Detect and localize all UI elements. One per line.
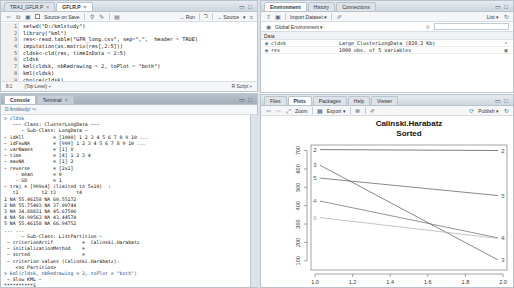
window-controls[interactable]: ▭ □ (495, 3, 509, 10)
previous-plot-icon[interactable]: ⇦ (265, 108, 271, 114)
view-table-icon[interactable]: ▦ (499, 47, 513, 53)
tab-files[interactable]: Files (264, 96, 287, 105)
open-icon[interactable]: ⇧ (265, 14, 271, 20)
tab-help[interactable]: Help (348, 96, 370, 105)
console-scrollbar[interactable] (250, 115, 258, 287)
series-label: 5 (501, 193, 505, 199)
separator (84, 13, 85, 20)
separator (199, 13, 200, 20)
editor-tabbar: TRAJ_GFLR.P× GFLR.P× ▭ □ (1, 1, 257, 12)
code-line[interactable]: 4imputation(as.matrix(res[,2:5])) (1, 43, 257, 50)
separator (109, 13, 110, 20)
series-label: 3 (313, 162, 317, 168)
code-line[interactable]: 8kml(cldsk) (1, 70, 257, 77)
close-icon[interactable]: × (65, 97, 68, 103)
tab-viewer[interactable]: Viewer (371, 96, 398, 105)
publish-icon[interactable]: ⟳ (468, 108, 474, 114)
x-tick-label: 1.2 (349, 279, 357, 285)
tab-packages[interactable]: Packages (313, 96, 347, 105)
code-editor[interactable]: 1setwd("D:/kmlstudy") 2library("kml") 3r… (1, 23, 257, 81)
save-icon[interactable]: ▣ (275, 14, 281, 20)
code-line[interactable]: 2library("kml") (1, 30, 257, 37)
compile-report-icon[interactable]: ▤ (114, 14, 120, 20)
run-button[interactable]: → Run (179, 14, 195, 20)
chart-title: Calinski.Harabatz (376, 119, 443, 128)
environment-scope-dropdown[interactable]: Global Environment ▾ (275, 24, 323, 30)
code-line[interactable]: 1setwd("D:/kmlstudy") (1, 23, 257, 30)
source-dropdown-icon[interactable]: ▾ (243, 14, 246, 20)
rerun-button[interactable]: ⮌ (204, 13, 208, 21)
zoom-button[interactable]: Zoom (295, 108, 308, 114)
series-line (320, 178, 498, 195)
tab-environment[interactable]: Environment (264, 2, 307, 11)
separator (212, 13, 213, 20)
dataset-icon[interactable]: ◉ (265, 47, 268, 53)
refresh-icon[interactable]: ↻ (503, 14, 509, 20)
file-type-selector[interactable]: R Script ÷ (232, 82, 252, 91)
separator (350, 107, 351, 114)
environment-search-input[interactable] (434, 23, 509, 30)
source-on-save-checkbox[interactable] (35, 14, 40, 19)
tab-console[interactable]: Console (4, 95, 36, 104)
env-row[interactable]: ◉ cldsk Large ClusterLongData (820.2 Kb)… (261, 40, 513, 47)
code-line[interactable]: 3res<-read.table("GFR_long.csv", sep=","… (1, 36, 257, 43)
y-tick-label: 300 (295, 219, 301, 228)
plots-toolbar: ⇦ ⇨ ⤢ Zoom ▦ Export ▾ ⊗ ✐ ⟳ Publish ▾ ↻ (261, 106, 513, 116)
y-tick-label: 400 (295, 201, 301, 210)
close-icon[interactable]: × (84, 4, 87, 10)
search-icon[interactable]: ⚲ (89, 14, 95, 20)
zoom-icon[interactable]: ⤢ (285, 108, 291, 114)
series-label: 3 (501, 257, 505, 263)
editor-toolbar: ⇦ ⧉ ▣ Source on Save ⚲ ✎ ▤ → Run ⮌ → Sou… (1, 12, 257, 22)
remove-plot-icon[interactable]: ⊗ (355, 108, 361, 114)
tab-terminal[interactable]: Terminal× (37, 95, 74, 104)
r-env-icon: ◉ (265, 24, 271, 30)
broom-icon[interactable]: ✐ (370, 108, 376, 114)
back-arrow-icon[interactable]: ⇦ (5, 14, 11, 20)
refresh-icon[interactable]: ↻ (503, 108, 509, 114)
code-line[interactable]: 7kml(cldsk, nbRedrawing = 2, toPlot = "b… (1, 63, 257, 70)
next-plot-icon[interactable]: ⇨ (275, 108, 281, 114)
tab-traj-gflr[interactable]: TRAJ_GFLR.P× (4, 2, 55, 11)
window-controls[interactable]: ▭ □ (239, 96, 253, 103)
line-chart: Calinski.Harabatz Sorted 100200300400500… (261, 117, 513, 287)
series-line (320, 218, 498, 239)
code-line[interactable]: 5cldsk<-cld(res, timeInData = 2:5) (1, 50, 257, 57)
y-tick-label: 100 (295, 256, 301, 265)
editor-menu-icon[interactable]: ≡ (250, 14, 253, 20)
save-icon[interactable]: ▣ (25, 14, 31, 20)
source-button[interactable]: → Source (217, 14, 239, 20)
code-line[interactable]: 6cldsk (1, 56, 257, 63)
export-icon[interactable]: ▦ (317, 108, 323, 114)
tab-history[interactable]: History (308, 2, 336, 11)
tab-gflr[interactable]: GFLR.P× (56, 2, 92, 11)
series-label: 6 (313, 215, 317, 221)
publish-button[interactable]: Publish ▾ (478, 108, 499, 114)
vertical-splitter[interactable] (258, 0, 260, 288)
separator (365, 107, 366, 114)
window-controls[interactable]: ▭ □ (239, 3, 253, 10)
tab-plots[interactable]: Plots (288, 96, 312, 105)
chart-subtitle: Sorted (396, 129, 421, 138)
console-output[interactable]: > cldsk ~~~ Class: ClusterLongData ~~~ ~… (1, 116, 257, 287)
series-label: 2 (313, 147, 317, 153)
inspect-icon[interactable]: ⌕ (499, 40, 513, 46)
working-directory[interactable]: D:/kmlstudy/ ⇨ (1, 105, 257, 115)
export-button[interactable]: Export ▾ (327, 108, 346, 114)
close-icon[interactable]: × (46, 4, 49, 10)
window-controls[interactable]: ▭ □ (495, 97, 509, 104)
import-dataset-button[interactable]: Import Dataset ▾ (290, 14, 327, 20)
x-tick-label: 2.0 (499, 279, 507, 285)
env-row[interactable]: ◉ res 1000 obs. of 5 variables ▦ (261, 47, 513, 54)
console-pane: Console Terminal× ▭ □ D:/kmlstudy/ ⇨ > c… (0, 93, 258, 288)
x-tick-label: 1.6 (424, 279, 432, 285)
view-mode-dropdown[interactable]: List ▾ (487, 14, 499, 20)
scope-selector[interactable]: (Top Level) ÷ (24, 82, 51, 91)
tab-connections[interactable]: Connections (336, 2, 376, 11)
series-line (320, 150, 498, 151)
broom-icon[interactable]: ✐ (336, 14, 342, 20)
dataset-icon[interactable]: ◉ (265, 40, 268, 46)
show-in-window-icon[interactable]: ⧉ (15, 14, 21, 20)
magic-wand-icon[interactable]: ✎ (99, 14, 105, 20)
y-tick-label: 700 (295, 146, 301, 155)
